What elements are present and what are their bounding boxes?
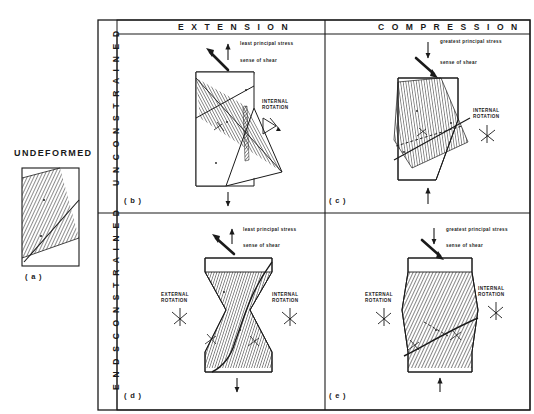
undeformed-panel-label: ( a ) <box>25 272 42 281</box>
rot-line2: ROTATION <box>262 105 289 110</box>
panel-e-internal-rotation-icon <box>488 302 503 320</box>
panel-e-shear-label: sense of shear <box>446 243 483 248</box>
panel-label-b: ( b ) <box>124 196 142 205</box>
panel-c-stress-label: greatest principal stress <box>440 39 502 44</box>
panel-e-external-rotation-icon <box>376 308 391 326</box>
panel-b-stress-label: least principal stress <box>240 41 293 46</box>
undeformed-title: UNDEFORMED <box>14 148 93 158</box>
panel-label-c: ( c ) <box>329 196 346 205</box>
panel-e-internal-rotation-label: INTERNAL ROTATION <box>478 286 505 298</box>
rot-line1: INTERNAL <box>262 99 288 104</box>
panel-b-figure <box>196 72 282 186</box>
rot-line1: INTERNAL <box>473 108 499 113</box>
rot-line2: ROTATION <box>365 298 392 303</box>
panel-d-shear-label: sense of shear <box>243 243 280 248</box>
panel-c-shear-label: sense of shear <box>440 60 477 65</box>
panel-e-stress-label: greatest principal stress <box>446 227 508 232</box>
rot-line1: INTERNAL <box>478 286 504 291</box>
panel-label-e: ( e ) <box>329 391 346 400</box>
row-header-ends-constrained: E N D S C O N S T R A I N E D <box>111 208 121 390</box>
panel-c-shear-arrow <box>416 58 438 78</box>
panel-d-shear-arrow <box>212 234 234 254</box>
row-header-unconstrained: U N C O N S T R A I N E D <box>111 29 121 186</box>
undeformed-block <box>22 168 79 266</box>
panel-b-shear-arrow <box>206 48 228 70</box>
panel-d-internal-rotation-label: INTERNAL ROTATION <box>272 292 299 304</box>
rot-line2: ROTATION <box>473 114 500 119</box>
column-header-compression: C O M P R E S S I O N <box>378 22 520 32</box>
rot-line1: EXTERNAL <box>365 292 393 297</box>
panel-e-external-rotation-label: EXTERNAL ROTATION <box>365 292 393 304</box>
panel-e-shear-arrow <box>422 240 444 260</box>
panel-c-internal-rotation-label: INTERNAL ROTATION <box>473 108 500 120</box>
panel-b-internal-rotation-label: INTERNAL ROTATION <box>262 99 289 111</box>
rot-line1: EXTERNAL <box>161 292 189 297</box>
panel-d-external-rotation-icon <box>172 308 187 326</box>
panel-label-d: ( d ) <box>124 391 142 400</box>
panel-d-stress-label: least principal stress <box>243 227 296 232</box>
panel-c-internal-rotation-icon <box>479 125 495 143</box>
rot-line2: ROTATION <box>161 298 188 303</box>
panel-c-figure <box>394 78 470 180</box>
rot-line2: ROTATION <box>272 298 299 303</box>
panel-d-figure <box>205 258 272 372</box>
panel-b-shear-label: sense of shear <box>240 58 277 63</box>
rot-line1: INTERNAL <box>272 292 298 297</box>
panel-d-internal-rotation-icon <box>282 308 297 326</box>
rot-line2: ROTATION <box>478 292 505 297</box>
panel-d-external-rotation-label: EXTERNAL ROTATION <box>161 292 189 304</box>
panel-e-figure <box>402 258 478 372</box>
column-header-extension: E X T E N S I O N <box>178 22 290 32</box>
